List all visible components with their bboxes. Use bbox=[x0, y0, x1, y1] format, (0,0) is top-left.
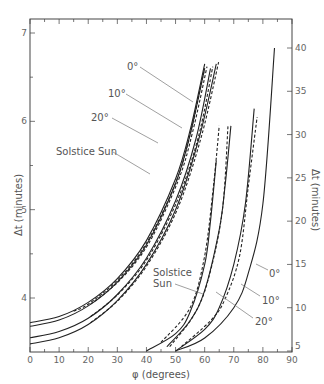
x-tick-label: 50 bbox=[170, 355, 182, 365]
annotation-left-20deg: 20° bbox=[91, 112, 109, 123]
y-right-tick-label: 15 bbox=[295, 259, 306, 269]
series-line bbox=[167, 126, 231, 347]
x-tick-label: 60 bbox=[199, 355, 211, 365]
y-left-tick-label: 6 bbox=[21, 116, 27, 126]
x-tick-label: 90 bbox=[286, 355, 298, 365]
x-tick-label: 40 bbox=[141, 355, 153, 365]
y-right-tick-label: 25 bbox=[295, 173, 306, 183]
annotation-left-0deg: 0° bbox=[127, 61, 138, 72]
y-axis-right-label: Δt (minutes) bbox=[310, 169, 321, 231]
x-tick-label: 20 bbox=[82, 355, 94, 365]
chart: 01020304050607080904567510152025303540 φ… bbox=[0, 0, 324, 384]
x-axis-label: φ (degrees) bbox=[132, 369, 190, 380]
annotation-right-0deg: 0° bbox=[269, 268, 280, 279]
series-line bbox=[170, 126, 228, 347]
annotation-right-solstice: Solstice bbox=[153, 267, 192, 278]
annotation-right-20deg: 20° bbox=[255, 316, 273, 327]
x-tick-label: 70 bbox=[228, 355, 240, 365]
annotation-left-10deg: 10° bbox=[108, 88, 126, 99]
y-left-tick-label: 4 bbox=[21, 293, 27, 303]
y-right-tick-label: 10 bbox=[295, 303, 307, 313]
plot-frame bbox=[30, 19, 292, 352]
series-line bbox=[30, 64, 216, 344]
y-right-tick-label: 5 bbox=[295, 341, 301, 351]
x-tick-label: 10 bbox=[53, 355, 65, 365]
y-right-tick-label: 20 bbox=[295, 216, 307, 226]
x-tick-label: 30 bbox=[112, 355, 124, 365]
series-line bbox=[91, 67, 213, 317]
annotation-right-10deg: 10° bbox=[262, 295, 280, 306]
series-line bbox=[176, 48, 275, 351]
y-right-tick-label: 30 bbox=[295, 130, 307, 140]
x-tick-label: 0 bbox=[27, 355, 33, 365]
annotation-right-sun: Sun bbox=[153, 278, 172, 289]
annotation-left-solstice-sun: Solstice Sun bbox=[56, 146, 117, 157]
x-tick-label: 80 bbox=[257, 355, 269, 365]
y-axis-left-label: Δt (minutes) bbox=[13, 174, 24, 236]
y-right-tick-label: 35 bbox=[295, 86, 306, 96]
series-line bbox=[146, 161, 216, 352]
y-right-tick-label: 40 bbox=[295, 43, 307, 53]
data-series bbox=[30, 48, 275, 351]
y-left-tick-label: 7 bbox=[21, 28, 27, 38]
